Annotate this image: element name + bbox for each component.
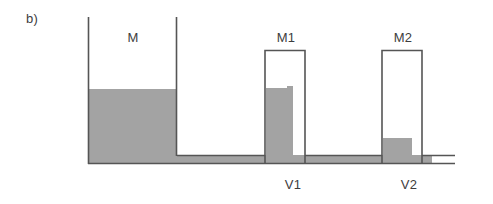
liquid-fill-riser-v1 [287,86,293,156]
figure-panel-b: b) M M1 M2 V1 V2 [0,0,493,204]
liquid-fill-chamber-m1 [266,88,287,156]
label-chamber-m2: M2 [394,31,412,44]
liquid-bodies [89,86,432,164]
hydraulic-schematic-drawing [0,0,493,204]
label-valve-v1: V1 [285,178,301,191]
label-chamber-m1: M1 [277,31,295,44]
label-valve-v2: V2 [401,178,417,191]
label-reservoir-m: M [127,31,138,44]
liquid-fill-pool-m2 [383,138,412,158]
panel-label-b: b) [26,12,38,25]
liquid-fill-connecting-channel [89,155,432,164]
liquid-fill-reservoir-m [89,89,176,163]
